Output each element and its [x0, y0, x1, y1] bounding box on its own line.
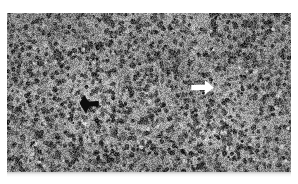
scan-artifact-strip — [7, 172, 291, 177]
photomicrograph-plate — [7, 13, 291, 172]
figure-root — [0, 0, 298, 184]
tissue-texture-canvas — [7, 13, 291, 172]
